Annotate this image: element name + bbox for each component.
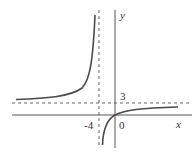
curve-left-branch bbox=[16, 15, 95, 100]
x-axis-label: x bbox=[175, 118, 181, 130]
v-asymptote-label: -4 bbox=[84, 119, 94, 131]
y-axis-label: y bbox=[119, 9, 125, 21]
origin-label: 0 bbox=[119, 119, 125, 131]
curve-right-branch bbox=[103, 107, 179, 145]
h-asymptote-label: 3 bbox=[120, 90, 126, 102]
rational-function-graph: y 3 -4 0 x bbox=[0, 0, 194, 155]
